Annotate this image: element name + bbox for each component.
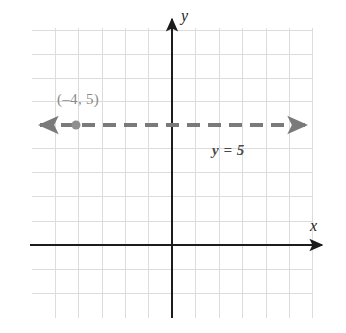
graph-canvas <box>0 0 346 333</box>
line-equation-label: y = 5 <box>212 143 245 158</box>
coordinate-plane-figure: y x (–4, 5) y = 5 <box>0 0 346 333</box>
axis-label-y: y <box>181 8 188 24</box>
axis-label-x: x <box>310 218 317 234</box>
plotted-point-marker <box>72 121 81 130</box>
point-coordinate-label: (–4, 5) <box>57 92 99 107</box>
